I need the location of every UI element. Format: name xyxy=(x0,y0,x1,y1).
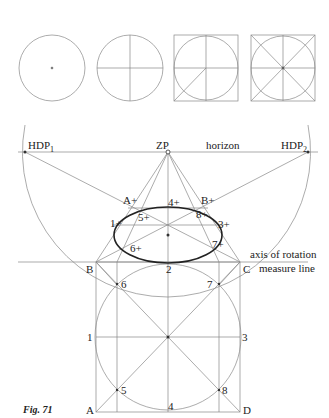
label-measure-line: measure line xyxy=(259,262,315,274)
label-8: 8 xyxy=(222,384,228,396)
label-2: 2 xyxy=(166,263,172,275)
label-B: B xyxy=(86,263,93,275)
label-8-plus: 8+ xyxy=(196,208,208,220)
label-5-plus: 5+ xyxy=(138,211,150,223)
label-7-plus: 7+ xyxy=(212,238,224,250)
label-4-plus: 4+ xyxy=(168,196,180,208)
label-C: C xyxy=(243,263,250,275)
step-2-circle-cross xyxy=(97,35,163,101)
label-6-plus: 6+ xyxy=(130,242,142,254)
label-1-plus: 1+ xyxy=(110,217,122,229)
label-B-plus: B+ xyxy=(201,194,215,206)
label-3-plus: 3+ xyxy=(218,218,230,230)
label-D: D xyxy=(243,404,251,416)
label-A-plus: A+ xyxy=(123,194,137,206)
label-1: 1 xyxy=(87,331,93,343)
label-4: 4 xyxy=(168,400,174,412)
label-6: 6 xyxy=(121,278,127,290)
step-4-circle-square-diagonals xyxy=(251,35,315,101)
step-3-circle-square xyxy=(174,35,238,101)
label-3: 3 xyxy=(242,331,248,343)
step-1-circle xyxy=(19,35,85,101)
figure-caption: Fig. 71 xyxy=(22,404,52,415)
label-A: A xyxy=(86,404,94,416)
perspective-circle-construction-diagram: HDP1 ZP horizon HDP2 axis of rotation me… xyxy=(0,0,329,418)
label-axis-of-rotation: axis of rotation xyxy=(250,248,317,260)
label-horizon: horizon xyxy=(206,139,240,151)
label-zp: ZP xyxy=(156,139,169,151)
label-5: 5 xyxy=(121,384,127,396)
label-7: 7 xyxy=(207,278,213,290)
